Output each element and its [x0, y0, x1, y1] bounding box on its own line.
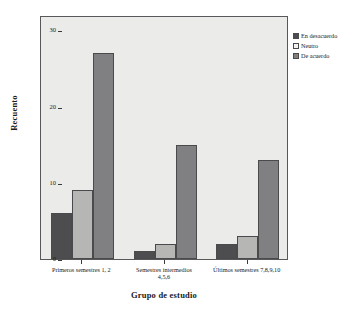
y-axis-tick-label: 30	[50, 26, 57, 34]
y-axis-tick-label: 20	[50, 103, 57, 111]
y-axis-tick-mark	[58, 108, 62, 109]
legend: En desacuerdoNeutroDe acuerdo	[293, 31, 357, 61]
legend-swatch-icon	[293, 33, 299, 39]
bar	[134, 251, 155, 259]
y-axis-tick-mark	[58, 260, 62, 261]
x-axis-tick-mark	[81, 260, 82, 264]
bar	[216, 244, 237, 259]
plot-area	[40, 16, 288, 260]
y-axis-tick: 30	[40, 31, 62, 32]
legend-swatch-icon	[293, 53, 299, 59]
y-axis-tick-label: 0	[53, 255, 56, 263]
bar-group	[51, 17, 114, 259]
bar-group	[216, 17, 279, 259]
legend-label: Neutro	[301, 42, 318, 49]
bar	[72, 190, 93, 259]
bar	[237, 236, 258, 259]
x-axis-title: Grupo de estudio	[40, 290, 288, 300]
bar-group	[134, 17, 197, 259]
y-axis-title: Recuento	[9, 73, 19, 153]
bar	[155, 244, 176, 259]
y-axis-tick: 10	[40, 184, 62, 185]
y-axis-tick: 20	[40, 108, 62, 109]
x-axis-tick-label: Últimos semestres 7,8,9,10	[197, 266, 297, 273]
y-axis-tick-mark	[58, 31, 62, 32]
bar	[51, 213, 72, 259]
legend-item: Neutro	[293, 41, 357, 50]
legend-label: De acuerdo	[301, 52, 329, 59]
plot-inner	[41, 17, 287, 259]
x-axis-tick-mark	[164, 260, 165, 264]
y-axis-tick-mark	[58, 184, 62, 185]
legend-swatch-icon	[293, 43, 299, 49]
y-axis-tick: 0	[40, 260, 62, 261]
legend-item: De acuerdo	[293, 51, 357, 60]
bar-chart: Recuento 0102030 Primeros semestres 1, 2…	[0, 0, 359, 314]
x-axis-tick-mark	[247, 260, 248, 264]
bar	[258, 160, 279, 259]
y-axis-tick-label: 10	[50, 179, 57, 187]
bar	[93, 53, 114, 259]
bar	[176, 145, 197, 259]
legend-label: En desacuerdo	[301, 32, 337, 39]
legend-item: En desacuerdo	[293, 31, 357, 40]
